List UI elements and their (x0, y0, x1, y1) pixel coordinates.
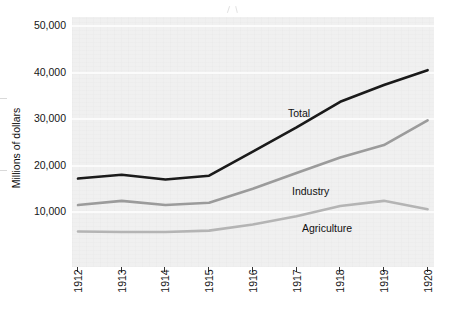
x-tick-1916: 1916 (246, 267, 260, 317)
x-tick-1913: 1913 (115, 267, 129, 317)
series-label-total: Total (288, 107, 310, 119)
x-tick-1918: 1918 (333, 267, 347, 317)
x-axis-tick-labels: 191219131914191519161917191819191920 (72, 267, 434, 317)
series-label-agriculture: Agriculture (302, 222, 352, 234)
x-tick-1914: 1914 (158, 267, 172, 317)
x-tick-1920: 1920 (421, 267, 435, 317)
y-tick-label: 40,000 (34, 67, 66, 78)
x-tick-label: 1918 (334, 263, 346, 299)
x-tick-label: 1920 (422, 263, 434, 299)
y-axis-title: Millions of dollars (10, 88, 22, 208)
x-tick-1915: 1915 (202, 267, 216, 317)
x-tick-label: 1914 (159, 263, 171, 299)
x-tick-label: 1917 (291, 263, 303, 299)
line-total (78, 70, 428, 179)
x-tick-1917: 1917 (290, 267, 304, 317)
y-tick-label: 50,000 (34, 20, 66, 31)
y-tick-label: 30,000 (34, 113, 66, 124)
line-industry (78, 120, 428, 205)
line-agriculture (78, 201, 428, 232)
x-tick-1919: 1919 (377, 267, 391, 317)
x-tick-1912: 1912 (71, 267, 85, 317)
chart-figure: TotalIndustryAgriculture 10,00020,00030,… (0, 0, 452, 317)
x-tick-label: 1915 (203, 263, 215, 299)
y-tick-label: 10,000 (34, 206, 66, 217)
x-tick-label: 1913 (116, 263, 128, 299)
series-label-industry: Industry (292, 185, 329, 197)
x-tick-label: 1912 (72, 263, 84, 299)
y-tick-label: 20,000 (34, 160, 66, 171)
x-tick-label: 1919 (378, 263, 390, 299)
x-tick-label: 1916 (247, 263, 259, 299)
